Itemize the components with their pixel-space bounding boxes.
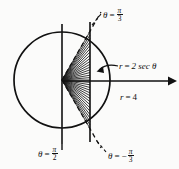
label-negative-sign: − <box>122 152 127 161</box>
leader-line-theta-neg-pi-over-3 <box>96 140 106 152</box>
fraction-denominator: 3 <box>117 15 123 23</box>
label-r-symbol: r <box>119 62 123 71</box>
label-r-symbol: r <box>120 93 124 102</box>
fraction-numerator: π <box>117 7 123 15</box>
fraction-pi-over-3: π 3 <box>128 148 134 165</box>
label-theta-symbol: θ <box>103 11 107 20</box>
fraction-numerator: π <box>52 146 58 154</box>
label-equals-sign: = <box>109 11 114 20</box>
leader-line-theta-pi-over-3 <box>92 14 101 25</box>
label-equals-sign: = <box>114 152 119 161</box>
label-theta-pi-over-3: θ = π 3 <box>103 7 123 24</box>
label-theta-symbol: θ <box>108 152 112 161</box>
fraction-denominator: 2 <box>52 154 58 162</box>
leader-arrowhead-r-2-sec-theta <box>97 67 105 74</box>
label-r-equals-4: r = 4 <box>120 93 137 102</box>
label-equals-sign: = <box>125 62 130 71</box>
label-r-value: 4 <box>133 93 138 102</box>
fraction-denominator: 3 <box>128 156 134 164</box>
fraction-numerator: π <box>128 148 134 156</box>
label-theta-symbol: θ <box>38 150 42 159</box>
label-equals-sign: = <box>126 93 131 102</box>
label-theta-neg-pi-over-3: θ = − π 3 <box>108 148 134 165</box>
label-theta-pi-over-2: θ = π 2 <box>38 146 58 163</box>
fraction-pi-over-3: π 3 <box>117 7 123 24</box>
label-sec-expression: 2 sec θ <box>132 62 157 71</box>
fan-rays-group <box>62 32 90 129</box>
label-equals-sign: = <box>44 150 49 159</box>
label-r-2-sec-theta: r = 2 sec θ <box>119 62 157 71</box>
polar-region-figure: θ = π 3 r = 2 sec θ r = 4 θ = π 2 θ = − … <box>0 0 179 169</box>
polar-axis-arrowhead <box>168 77 177 86</box>
fraction-pi-over-2: π 2 <box>52 146 58 163</box>
figure-canvas <box>0 0 179 169</box>
